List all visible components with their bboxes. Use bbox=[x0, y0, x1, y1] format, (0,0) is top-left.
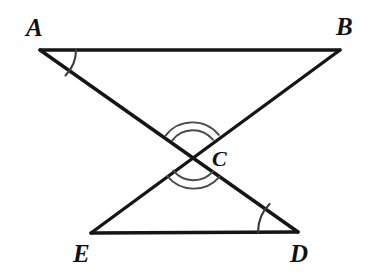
vertex-label-C: C bbox=[212, 146, 227, 171]
geometry-canvas: A B C E D bbox=[0, 0, 365, 276]
segment-BE bbox=[91, 50, 340, 233]
vertex-label-B: B bbox=[335, 13, 353, 40]
angle-mark-C-bottom-inner bbox=[173, 171, 213, 181]
vertex-label-E: E bbox=[72, 240, 90, 267]
vertex-label-A: A bbox=[24, 14, 43, 41]
segment-ED bbox=[91, 232, 298, 233]
segment-AD bbox=[40, 50, 298, 232]
geometry-figure: A B C E D bbox=[0, 0, 365, 276]
vertex-label-D: D bbox=[289, 240, 308, 267]
angle-mark-C-bottom-outer bbox=[167, 176, 219, 189]
angle-mark-C-top-outer bbox=[166, 122, 219, 135]
angle-mark-C-top-inner bbox=[172, 130, 213, 140]
